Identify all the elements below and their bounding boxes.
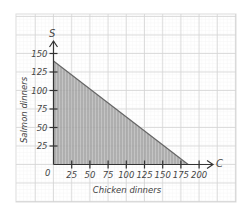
y-tick-label: 75 — [37, 104, 48, 114]
y-axis-letter: S — [49, 28, 56, 39]
y-tick-label: 150 — [31, 49, 47, 59]
x-tick-label: 25 — [66, 170, 77, 180]
y-axis-label: Salmon dinners — [19, 76, 29, 143]
x-tick-label: 200 — [191, 170, 207, 180]
y-tick-label: 125 — [31, 67, 47, 77]
y-tick-label: 25 — [37, 141, 48, 151]
y-tick-label: 100 — [31, 86, 47, 96]
origin-label: 0 — [45, 168, 50, 178]
x-axis-letter: C — [216, 158, 223, 169]
x-tick-label: 100 — [118, 170, 134, 180]
x-tick-label: 75 — [103, 170, 114, 180]
y-tick-label: 50 — [37, 123, 48, 133]
x-tick-label: 125 — [136, 170, 152, 180]
chart: 255075100125150175200 255075100125150 0 … — [0, 0, 249, 216]
x-tick-label: 50 — [84, 170, 95, 180]
x-tick-label: 150 — [155, 170, 171, 180]
x-tick-labels: 255075100125150175200 — [66, 170, 207, 180]
x-axis-label: Chicken dinners — [93, 185, 162, 195]
x-tick-label: 175 — [173, 170, 189, 180]
